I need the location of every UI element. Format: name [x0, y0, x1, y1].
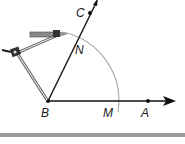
label-b: B	[41, 106, 49, 120]
compass-icon	[2, 30, 67, 100]
geometry-diagram: C N B M A	[0, 0, 185, 144]
point-a	[146, 99, 150, 103]
label-a: A	[140, 106, 149, 120]
point-c	[88, 11, 92, 15]
divider-bar	[0, 133, 185, 137]
arrow-head-icon	[93, 0, 98, 6]
label-c: C	[76, 6, 85, 20]
ray-bc	[48, 3, 96, 101]
label-n: N	[75, 43, 84, 57]
label-m: M	[103, 106, 113, 120]
construction-arc	[62, 32, 119, 112]
